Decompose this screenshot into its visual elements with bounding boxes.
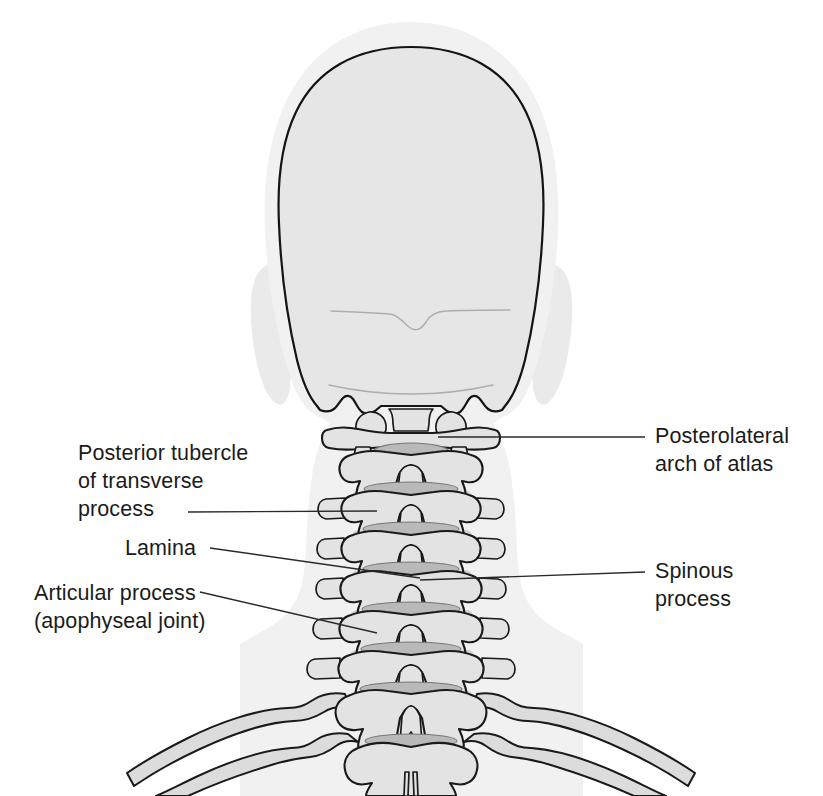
label-line: Lamina	[125, 536, 196, 560]
c4-transverse-process-left	[317, 538, 344, 559]
c7-transverse-process-right	[482, 658, 515, 679]
atlas-median-occipital-block	[389, 409, 433, 431]
label-line: arch of atlas	[655, 452, 773, 476]
anatomy-figure: Posterior tubercle of transverse process…	[0, 0, 823, 796]
c6-transverse-process-right	[480, 618, 509, 639]
cervical-spine-illustration: Posterior tubercle of transverse process…	[0, 0, 823, 796]
label-line: Spinous	[655, 559, 733, 583]
label-line: of transverse	[78, 469, 204, 493]
label-line: Posterolateral	[655, 424, 789, 448]
label-line: Posterior tubercle	[78, 441, 248, 465]
label-posterolateral-arch-of-atlas: Posterolateral arch of atlas	[655, 424, 795, 476]
skull-outline	[279, 47, 544, 414]
c5-transverse-process-right	[479, 578, 506, 599]
c4-transverse-process-right	[478, 538, 505, 559]
label-line: (apophyseal joint)	[34, 609, 206, 633]
c7-transverse-process-left	[307, 658, 340, 679]
label-posterior-tubercle-of-transverse-process: Posterior tubercle of transverse process	[78, 441, 254, 521]
label-line: process	[78, 497, 154, 521]
label-spinous-process: Spinous process	[655, 559, 739, 611]
label-line: Articular process	[34, 581, 196, 605]
label-lamina: Lamina	[125, 536, 196, 560]
vertebral-column-group	[127, 409, 695, 796]
skull-group	[279, 47, 544, 414]
c5-transverse-process-left	[316, 578, 343, 599]
label-line: process	[655, 587, 731, 611]
label-articular-process-apophyseal-joint: Articular process (apophyseal joint)	[34, 581, 206, 633]
